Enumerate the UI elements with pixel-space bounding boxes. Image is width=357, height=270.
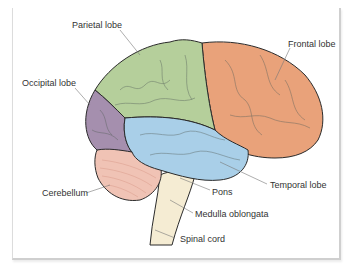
label-medulla-oblongata: Medulla oblongata xyxy=(195,209,269,219)
label-occipital-lobe: Occipital lobe xyxy=(22,78,76,88)
brain-diagram: Parietal lobe Frontal lobe Occipital lob… xyxy=(0,0,357,270)
label-frontal-lobe: Frontal lobe xyxy=(288,39,336,49)
label-pons: Pons xyxy=(212,187,233,197)
label-temporal-lobe: Temporal lobe xyxy=(270,180,327,190)
parietal-leader xyxy=(120,30,140,55)
label-cerebellum: Cerebellum xyxy=(42,188,88,198)
occipital-leader xyxy=(75,88,90,105)
label-spinal-cord: Spinal cord xyxy=(180,234,225,244)
label-parietal-lobe: Parietal lobe xyxy=(72,20,122,30)
